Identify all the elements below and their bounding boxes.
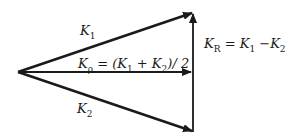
vector-diagram: K1 K2 Kρ = (K1 + K2)/ 2 KR = K1 −K2 — [0, 0, 291, 140]
kr-equation-label: KR = K1 −K2 — [204, 37, 286, 50]
k2-vector-arrow — [18, 72, 192, 131]
kp-equation-label: Kρ = (K1 + K2)/ 2 — [78, 57, 189, 70]
k1-label: K1 — [80, 24, 95, 37]
k2-label: K2 — [77, 102, 92, 115]
